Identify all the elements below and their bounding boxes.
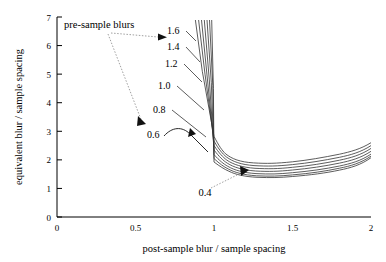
y-tick-label-0: 0 — [47, 213, 52, 223]
curve-series-1.0 — [204, 20, 371, 171]
pre-sample-blurs-label: pre-sample blurs — [64, 19, 134, 30]
y-tick-label-4: 4 — [47, 98, 52, 108]
leader-1.2 — [184, 64, 202, 82]
curves-group — [195, 20, 371, 178]
y-tick-label-5: 5 — [47, 70, 52, 80]
leader-1.6 — [186, 31, 196, 41]
y-tick-label-1: 1 — [47, 184, 52, 194]
y-tick-label-3: 3 — [47, 127, 52, 137]
pre-sample-leader-lower — [108, 34, 142, 122]
x-tick-label-4: 2 — [369, 223, 374, 233]
x-tick-labels: 0 0.5 1 1.5 2 — [55, 223, 374, 233]
label-04-annotation: 0.4 — [198, 166, 249, 198]
leader-0.6 — [164, 129, 208, 152]
leader-1.4 — [186, 47, 200, 62]
y-tick-label-2: 2 — [47, 155, 52, 165]
series-label-1.4: 1.4 — [167, 41, 180, 52]
x-tick-label-1: 0.5 — [130, 223, 142, 233]
series-label-1.0: 1.0 — [158, 80, 171, 91]
x-tick-label-3: 1.5 — [287, 223, 299, 233]
pre-sample-blurs-annotation: pre-sample blurs — [64, 19, 167, 126]
pre-sample-arrowhead-lower — [137, 116, 146, 126]
series-labels-group: 1.6 1.4 1.2 1.0 0.8 0.6 — [147, 25, 180, 140]
x-axis-title: post-sample blur / sample spacing — [143, 243, 287, 254]
curve-series-1.6 — [195, 20, 371, 163]
label-04: 0.4 — [198, 187, 212, 198]
series-label-1.6: 1.6 — [167, 25, 180, 36]
pre-sample-arrowhead-upper — [158, 34, 167, 41]
pre-sample-leader-upper — [111, 33, 158, 37]
chart-figure: 0 1 2 3 4 5 6 7 0 0.5 1 1.5 2 — [0, 0, 386, 262]
y-tick-marks — [57, 17, 62, 217]
x-tick-label-0: 0 — [55, 223, 60, 233]
y-tick-label-7: 7 — [47, 13, 52, 23]
y-tick-labels: 0 1 2 3 4 5 6 7 — [47, 13, 52, 223]
series-label-1.2: 1.2 — [165, 58, 178, 69]
curve-series-0.4 — [212, 20, 371, 178]
leader-1.0 — [177, 86, 204, 110]
series-label-0.8: 0.8 — [153, 104, 166, 115]
curve-series-1.4 — [199, 20, 371, 166]
curve-series-1.2 — [202, 20, 372, 169]
y-tick-label-6: 6 — [47, 41, 52, 51]
series-label-0.6: 0.6 — [147, 129, 160, 140]
y-axis-title: equivalent blur / sample spacing — [13, 48, 24, 185]
chart-svg: 0 1 2 3 4 5 6 7 0 0.5 1 1.5 2 — [0, 0, 386, 262]
x-tick-label-2: 1 — [212, 223, 217, 233]
curve-series-0.8 — [207, 20, 371, 174]
